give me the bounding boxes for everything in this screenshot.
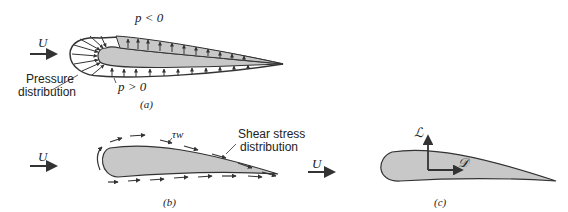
wall-shear-label: τw — [172, 128, 183, 141]
airfoil-diagram — [0, 0, 568, 212]
pressure-label: p > 0 — [118, 80, 146, 93]
suction-label: p < 0 — [135, 11, 163, 24]
drag-label: 𝒟 — [458, 156, 468, 169]
airfoil-c — [381, 150, 556, 181]
shear-leader — [226, 144, 236, 154]
caption-a: (a) — [140, 98, 153, 110]
pressure-annotation-2: distribution — [18, 86, 76, 99]
free-stream-label-a: U — [38, 36, 47, 49]
panel-c — [308, 136, 556, 181]
free-stream-label-b: U — [38, 150, 47, 163]
caption-b: (b) — [163, 196, 176, 208]
shear-annotation-2: distribution — [240, 141, 298, 154]
caption-c: (c) — [434, 196, 446, 208]
lift-label: ℒ — [414, 126, 423, 139]
free-stream-label-c: U — [312, 157, 321, 170]
